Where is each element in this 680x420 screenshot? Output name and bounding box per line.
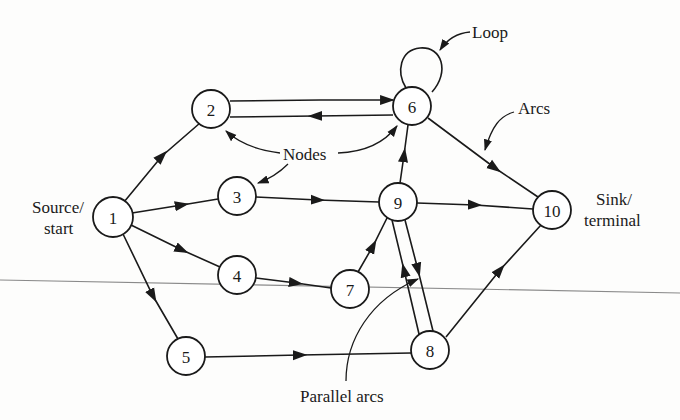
node-2: 2 bbox=[192, 90, 230, 128]
svg-text:10: 10 bbox=[544, 202, 561, 221]
node-4: 4 bbox=[218, 256, 256, 294]
sink-label-line1: Sink/ bbox=[596, 190, 632, 209]
svg-text:4: 4 bbox=[233, 267, 242, 286]
network-diagram: 1 2 3 4 5 6 7 8 9 10 Source/ start Sink/… bbox=[0, 0, 680, 420]
arc-6-10 bbox=[428, 118, 538, 197]
arc-7-9 bbox=[358, 218, 387, 272]
arc-6-2 bbox=[230, 115, 393, 117]
source-label-line1: Source/ bbox=[32, 198, 84, 217]
node-5: 5 bbox=[167, 337, 205, 375]
svg-text:6: 6 bbox=[408, 98, 417, 117]
nodes-pointer-to-6 bbox=[338, 126, 397, 153]
nodes-pointer-to-2 bbox=[226, 131, 280, 153]
arcs-group bbox=[123, 48, 541, 357]
parallel-arcs-label: Parallel arcs bbox=[300, 387, 384, 406]
arc-1-3 bbox=[132, 199, 218, 213]
arc-1-5 bbox=[123, 234, 178, 339]
nodes-pointer-to-3 bbox=[258, 164, 288, 183]
node-3: 3 bbox=[218, 177, 256, 215]
loop-pointer bbox=[440, 32, 470, 50]
svg-text:2: 2 bbox=[207, 101, 216, 120]
svg-text:5: 5 bbox=[182, 348, 191, 367]
nodes-group: 1 2 3 4 5 6 7 8 9 10 bbox=[93, 87, 571, 375]
node-10: 10 bbox=[533, 191, 571, 229]
arc-8-10 bbox=[446, 225, 541, 337]
arc-9-10 bbox=[417, 203, 533, 209]
source-label-line2: start bbox=[44, 219, 74, 238]
node-9: 9 bbox=[379, 183, 417, 221]
arc-5-8 bbox=[205, 353, 411, 357]
arc-1-4 bbox=[131, 225, 220, 267]
arcs-pointer bbox=[485, 112, 514, 150]
arc-9-6 bbox=[400, 125, 408, 183]
svg-text:9: 9 bbox=[394, 194, 403, 213]
node-1: 1 bbox=[93, 197, 133, 237]
nodes-label: Nodes bbox=[283, 145, 326, 164]
node-6: 6 bbox=[393, 87, 431, 125]
annotation-pointers bbox=[226, 32, 514, 381]
svg-text:3: 3 bbox=[233, 188, 242, 207]
svg-text:7: 7 bbox=[346, 281, 355, 300]
arc-4-7 bbox=[256, 278, 331, 288]
loop-label: Loop bbox=[472, 23, 508, 42]
svg-text:8: 8 bbox=[426, 342, 435, 361]
sink-label-line2: terminal bbox=[584, 211, 641, 230]
arc-9-8 bbox=[405, 220, 433, 331]
node-8: 8 bbox=[411, 331, 449, 369]
svg-text:1: 1 bbox=[109, 209, 118, 228]
node-7: 7 bbox=[331, 270, 369, 308]
arc-3-9 bbox=[256, 197, 379, 202]
arc-8-9 bbox=[392, 220, 419, 334]
loop-arc-6 bbox=[401, 48, 442, 92]
diagram-svg: 1 2 3 4 5 6 7 8 9 10 Source/ start Sink/… bbox=[0, 0, 680, 420]
arc-1-2 bbox=[124, 123, 200, 202]
arc-2-6 bbox=[230, 100, 393, 101]
arcs-label: Arcs bbox=[518, 99, 550, 118]
